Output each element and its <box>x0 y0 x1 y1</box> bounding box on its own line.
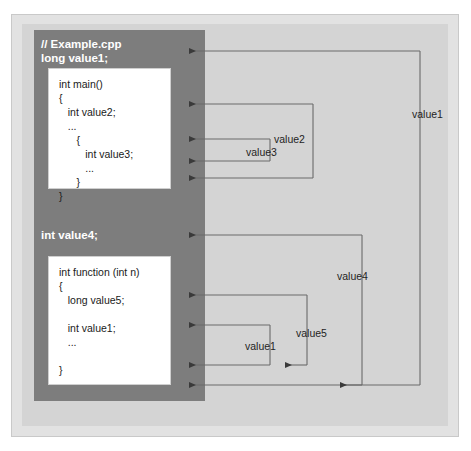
diagram-canvas: // Example.cpplong value1; int value4; i… <box>0 0 471 451</box>
global-declaration: long value1; <box>41 52 108 64</box>
code-block-main: int main() { int value2; ... { int value… <box>48 68 171 189</box>
scope-label-value2: value2 <box>274 133 305 145</box>
file-header-label: // Example.cpplong value1; <box>41 37 122 65</box>
scope-label-value1-outer: value1 <box>412 108 443 120</box>
file-comment: // Example.cpp <box>41 38 122 50</box>
scope-label-value3: value3 <box>246 146 277 158</box>
code-block-function: int function (int n) { long value5; int … <box>48 256 171 385</box>
scope-label-value4: value4 <box>337 270 368 282</box>
second-global-declaration-label: int value4; <box>41 228 98 242</box>
scope-label-value5: value5 <box>296 327 327 339</box>
scope-label-value1-inner: value1 <box>245 340 276 352</box>
